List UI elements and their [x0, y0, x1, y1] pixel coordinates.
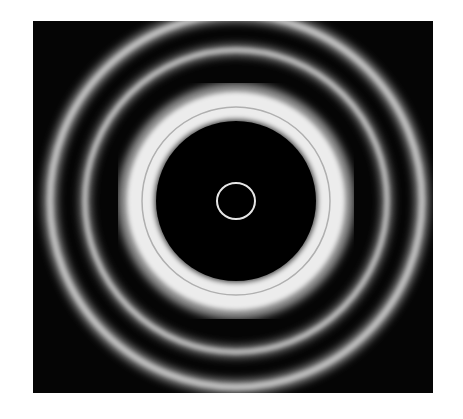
diffraction-pattern-photo — [33, 21, 433, 393]
concentric-rings — [33, 21, 433, 393]
central-dark-disk — [156, 121, 316, 281]
